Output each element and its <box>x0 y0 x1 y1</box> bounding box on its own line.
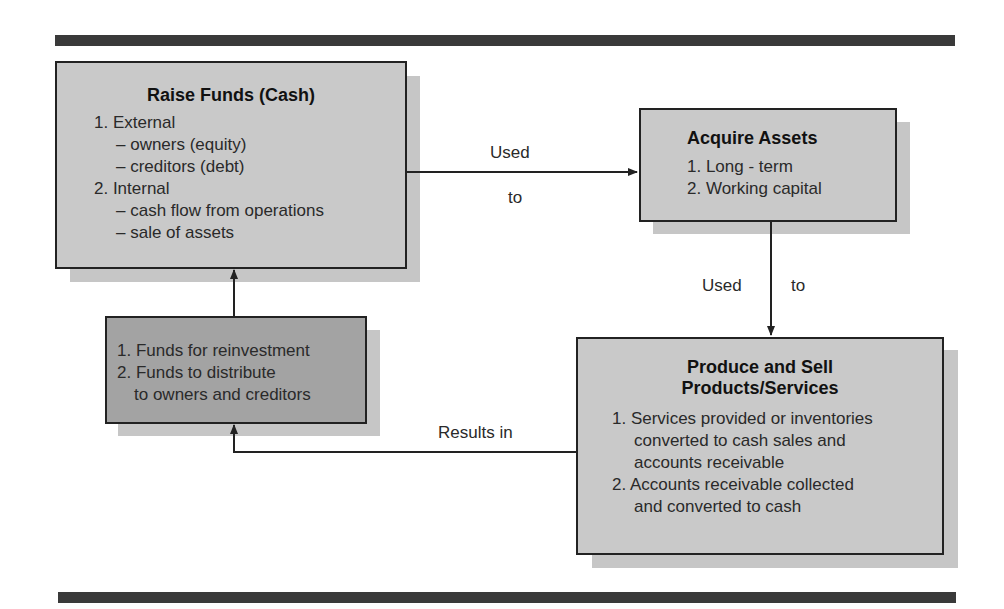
list-item: – cash flow from operations <box>94 200 405 222</box>
list-item: accounts receivable <box>612 452 942 474</box>
list-item: converted to cash sales and <box>612 430 942 452</box>
edge-label-used-left: Used <box>702 276 742 296</box>
edge-label-used-top: Used <box>490 143 530 163</box>
raise-funds-title: Raise Funds (Cash) <box>57 85 405 106</box>
acquire-assets-box: Acquire Assets 1. Long - term 2. Working… <box>639 108 897 222</box>
arrow-produce-to-results <box>234 425 576 452</box>
list-item: to owners and creditors <box>117 384 365 406</box>
produce-sell-title-2: Products/Services <box>578 378 942 399</box>
produce-sell-list: 1. Services provided or inventories conv… <box>612 408 942 518</box>
list-item: 2. Working capital <box>687 178 895 200</box>
list-item: – sale of assets <box>94 222 405 244</box>
edge-label-to-right: to <box>791 276 805 296</box>
acquire-assets-list: 1. Long - term 2. Working capital <box>687 156 895 200</box>
list-item: 1. Long - term <box>687 156 895 178</box>
list-item: 1. Services provided or inventories <box>612 408 942 430</box>
list-item: 2. Accounts receivable collected <box>612 474 942 496</box>
raise-funds-box: Raise Funds (Cash) 1. External – owners … <box>55 61 407 269</box>
list-item: 2. Internal <box>94 178 405 200</box>
acquire-assets-title: Acquire Assets <box>687 128 895 149</box>
list-item: 1. External <box>94 112 405 134</box>
results-box: 1. Funds for reinvestment 2. Funds to di… <box>105 316 367 424</box>
list-item: and converted to cash <box>612 496 942 518</box>
edge-label-results-in: Results in <box>438 423 513 443</box>
list-item: 2. Funds to distribute <box>117 362 365 384</box>
list-item: – creditors (debt) <box>94 156 405 178</box>
raise-funds-list: 1. External – owners (equity) – creditor… <box>94 112 405 244</box>
list-item: – owners (equity) <box>94 134 405 156</box>
results-list: 1. Funds for reinvestment 2. Funds to di… <box>117 340 365 406</box>
list-item: 1. Funds for reinvestment <box>117 340 365 362</box>
produce-sell-title-1: Produce and Sell <box>578 357 942 378</box>
edge-label-to-bottom: to <box>508 188 522 208</box>
produce-sell-box: Produce and Sell Products/Services 1. Se… <box>576 337 944 555</box>
